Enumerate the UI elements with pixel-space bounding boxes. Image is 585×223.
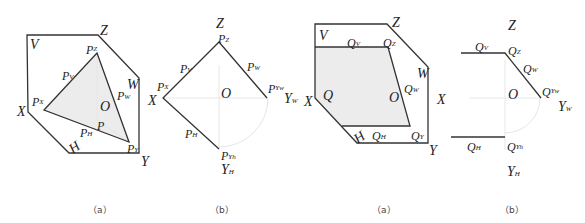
label-Pv: PV xyxy=(61,69,74,83)
caption-b-left: （b） xyxy=(210,205,234,215)
label-Y: Y xyxy=(141,154,151,169)
label-Pyh: PYh xyxy=(220,149,236,163)
caption-b-right: （b） xyxy=(500,205,524,215)
label-X: X xyxy=(147,93,157,108)
label-P: P xyxy=(96,119,105,133)
label-Qw: QW xyxy=(523,62,539,76)
label-Qz: QZ xyxy=(383,36,396,50)
label-V: V xyxy=(319,28,329,43)
label-V: V xyxy=(30,37,40,52)
label-W: W xyxy=(127,77,140,92)
label-O: O xyxy=(389,90,399,105)
label-Z: Z xyxy=(508,18,516,33)
label-Z: Z xyxy=(216,16,224,31)
label-X: X xyxy=(16,104,26,119)
label-Z: Z xyxy=(392,15,400,30)
label-W: W xyxy=(417,66,430,81)
label-Qw: QW xyxy=(404,82,420,96)
label-O: O xyxy=(221,86,231,101)
label-Qyw: QYw xyxy=(542,85,560,99)
label-Yh: YH xyxy=(221,162,235,177)
label-Pyw: PYw xyxy=(267,82,284,96)
label-Z: Z xyxy=(100,23,108,38)
label-Pw: PW xyxy=(246,60,261,74)
figure-right-b: Z O QV QZ QW QYw YW QH QYh YH （b） xyxy=(451,18,573,215)
label-Qh: QH xyxy=(372,129,387,143)
label-Yw: YW xyxy=(558,99,573,114)
figure-left-b: Z X O PZ PV PX PW PH PYw YW PYh YH （b） xyxy=(147,16,299,215)
label-Qz: QZ xyxy=(508,44,521,58)
projection-polyline xyxy=(163,42,267,149)
label-Pv: PV xyxy=(179,62,192,76)
label-Qv: QV xyxy=(475,40,489,54)
label-O: O xyxy=(508,87,518,102)
projection-diagram: V Z W X Y H O P PZ PV PX PW PH PY （a） Z … xyxy=(0,0,585,223)
figure-left-a: V Z W X Y H O P PZ PV PX PW PH PY （a） xyxy=(16,23,151,215)
label-Py: PY xyxy=(126,142,139,156)
label-Qh: QH xyxy=(467,140,482,154)
label-O: O xyxy=(100,99,110,114)
label-Qy: QY xyxy=(411,129,425,143)
label-H: H xyxy=(350,128,368,147)
label-Px: PX xyxy=(31,95,44,109)
label-Qyh: QYh xyxy=(507,140,524,154)
label-X2: X xyxy=(436,92,446,107)
projection-arc xyxy=(219,98,268,147)
caption-a-left: （a） xyxy=(88,205,112,215)
label-Pz: PZ xyxy=(217,32,229,46)
label-Qv: QV xyxy=(347,36,361,50)
label-Px: PX xyxy=(156,80,169,94)
figure-right-a: V Z W X X Y H O Q QV QZ QW QH QY （a） xyxy=(303,15,446,215)
label-X: X xyxy=(303,94,313,109)
label-Yh: YH xyxy=(507,164,521,179)
label-Q: Q xyxy=(323,88,333,103)
label-H: H xyxy=(65,138,83,157)
label-Yw: YW xyxy=(284,91,299,106)
projection-arc xyxy=(505,98,540,133)
caption-a-right: （a） xyxy=(372,205,396,215)
label-Y: Y xyxy=(429,143,439,158)
